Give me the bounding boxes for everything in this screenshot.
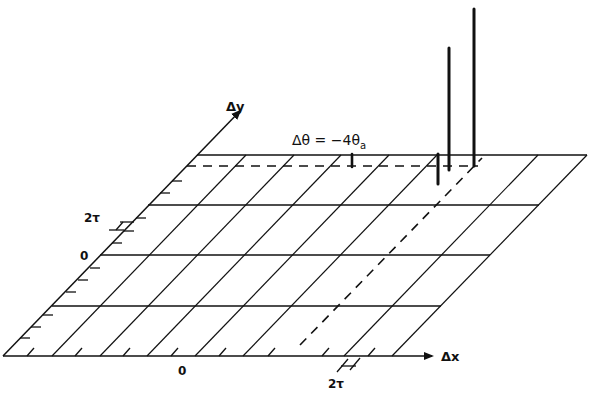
diagram-root: Δy Δx Δθ = −4θa 2τ 0 0 2τ xyxy=(0,0,589,397)
x-axis-label: Δx xyxy=(441,350,459,363)
grid-diagram xyxy=(0,0,589,397)
y-spacing-bracket xyxy=(109,222,134,230)
annotation-subscript: a xyxy=(360,140,366,151)
x-origin-label: 0 xyxy=(178,365,186,377)
y-spacing-label: 2τ xyxy=(84,212,100,224)
x-spacing-bracket xyxy=(337,358,360,372)
y-origin-label: 0 xyxy=(80,250,88,262)
annotation-text: Δθ = −4θ xyxy=(292,132,360,148)
dashed-lines xyxy=(187,158,482,345)
y-axis xyxy=(3,111,240,356)
x-spacing-label: 2τ xyxy=(328,378,344,390)
spikes xyxy=(352,9,474,184)
y-axis-label: Δy xyxy=(226,100,245,113)
annotation-label: Δθ = −4θa xyxy=(292,133,366,151)
